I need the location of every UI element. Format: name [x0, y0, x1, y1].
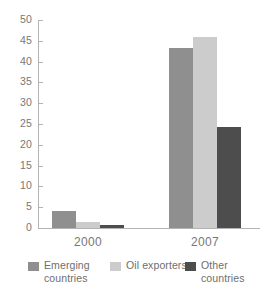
bar [193, 37, 217, 228]
bar [76, 222, 100, 228]
bar [217, 127, 241, 228]
legend-swatch-icon [185, 262, 196, 271]
plot-area: 05101520253035404550 20002007 [0, 0, 266, 240]
bar [52, 211, 76, 228]
legend-label: Emerging countries [44, 259, 90, 284]
bar [100, 225, 124, 228]
bar-chart: 05101520253035404550 20002007 Emerging c… [0, 0, 266, 296]
x-axis-label: 2007 [165, 234, 245, 250]
chart-legend: Emerging countriesOil exportersOther cou… [0, 259, 266, 296]
legend-item[interactable]: Oil exporters [110, 259, 187, 272]
legend-item[interactable]: Emerging countries [28, 259, 90, 284]
bars-layer [0, 0, 266, 240]
legend-label: Oil exporters [126, 259, 187, 272]
legend-item[interactable]: Other countries [185, 259, 245, 284]
x-axis-label: 2000 [48, 234, 128, 250]
legend-swatch-icon [28, 262, 39, 271]
bar [169, 48, 193, 228]
legend-label: Other countries [201, 259, 245, 284]
legend-swatch-icon [110, 262, 121, 271]
